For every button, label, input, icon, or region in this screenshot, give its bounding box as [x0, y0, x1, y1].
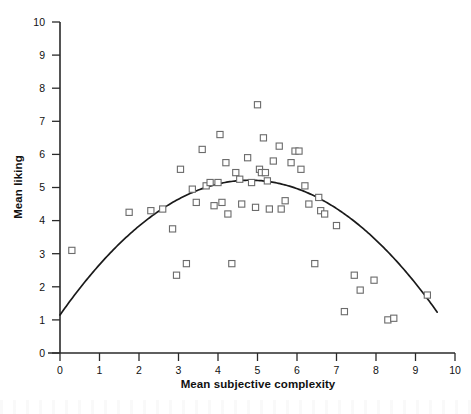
data-point-marker	[177, 166, 183, 172]
data-point-marker	[424, 292, 430, 298]
data-point-marker	[262, 170, 268, 176]
data-point-marker	[288, 160, 294, 166]
y-tick-label: 3	[39, 248, 45, 260]
y-tick-label: 2	[39, 281, 45, 293]
x-tick-label: 6	[294, 364, 300, 376]
y-tick-label: 0	[39, 347, 45, 359]
y-tick-label: 1	[39, 314, 45, 326]
data-point-marker	[385, 317, 391, 323]
data-point-marker	[357, 287, 363, 293]
y-tick-label: 7	[39, 115, 45, 127]
data-point-marker	[193, 199, 199, 205]
data-point-marker	[391, 315, 397, 321]
data-point-marker	[248, 179, 254, 185]
y-axis-title: Mean liking	[12, 155, 24, 219]
x-tick-label: 1	[97, 364, 103, 376]
data-point-marker	[189, 186, 195, 192]
y-axis-ticks: 012345678910	[33, 16, 60, 359]
data-point-marker	[371, 277, 377, 283]
data-point-marker	[312, 261, 318, 267]
data-point-marker	[173, 272, 179, 278]
data-point-marker	[254, 102, 260, 108]
data-point-marker	[276, 143, 282, 149]
data-point-marker	[160, 206, 166, 212]
y-tick-label: 9	[39, 49, 45, 61]
x-tick-label: 3	[176, 364, 182, 376]
scan-artifact-band	[0, 400, 471, 414]
data-point-marker	[233, 170, 239, 176]
data-point-marker	[341, 309, 347, 315]
x-tick-label: 9	[413, 364, 419, 376]
data-point-marker	[266, 206, 272, 212]
y-tick-label: 6	[39, 148, 45, 160]
x-tick-label: 7	[334, 364, 340, 376]
data-point-marker	[322, 211, 328, 217]
plot-canvas: 012345678910 012345678910 Mean subjectiv…	[0, 0, 471, 414]
data-point-marker	[302, 183, 308, 189]
data-point-marker	[148, 208, 154, 214]
data-point-marker	[298, 166, 304, 172]
x-tick-label: 0	[57, 364, 63, 376]
y-tick-label: 8	[39, 82, 45, 94]
data-point-marker	[306, 201, 312, 207]
data-point-marker	[183, 261, 189, 267]
x-axis-title: Mean subjective complexity	[181, 378, 336, 390]
data-point-marker	[278, 206, 284, 212]
scatter-plot-figure: 012345678910 012345678910 Mean subjectiv…	[0, 0, 471, 414]
data-point-marker	[264, 178, 270, 184]
data-point-marker	[282, 198, 288, 204]
data-point-marker	[333, 222, 339, 228]
data-point-marker	[126, 209, 132, 215]
data-point-marker	[217, 131, 223, 137]
data-point-marker	[245, 155, 251, 161]
data-point-marker	[252, 204, 258, 210]
y-tick-label: 4	[39, 214, 45, 226]
data-point-marker	[316, 194, 322, 200]
data-point-group	[69, 102, 431, 323]
data-point-marker	[207, 179, 213, 185]
x-tick-label: 4	[215, 364, 221, 376]
y-tick-label: 10	[33, 16, 45, 28]
data-point-marker	[69, 247, 75, 253]
data-point-marker	[237, 176, 243, 182]
x-tick-label: 8	[373, 364, 379, 376]
data-point-marker	[260, 135, 266, 141]
data-point-marker	[296, 148, 302, 154]
data-point-marker	[229, 261, 235, 267]
data-point-marker	[199, 146, 205, 152]
data-point-marker	[239, 201, 245, 207]
data-point-marker	[225, 211, 231, 217]
x-tick-label: 5	[255, 364, 261, 376]
x-tick-label: 2	[136, 364, 142, 376]
data-point-marker	[169, 226, 175, 232]
data-point-marker	[219, 199, 225, 205]
x-axis-ticks: 012345678910	[57, 353, 461, 376]
y-tick-label: 5	[39, 181, 45, 193]
data-point-marker	[215, 179, 221, 185]
data-point-marker	[351, 272, 357, 278]
x-tick-label: 10	[449, 364, 461, 376]
data-point-marker	[223, 160, 229, 166]
data-point-marker	[270, 158, 276, 164]
data-point-marker	[211, 203, 217, 209]
fitted-curve	[60, 180, 437, 315]
